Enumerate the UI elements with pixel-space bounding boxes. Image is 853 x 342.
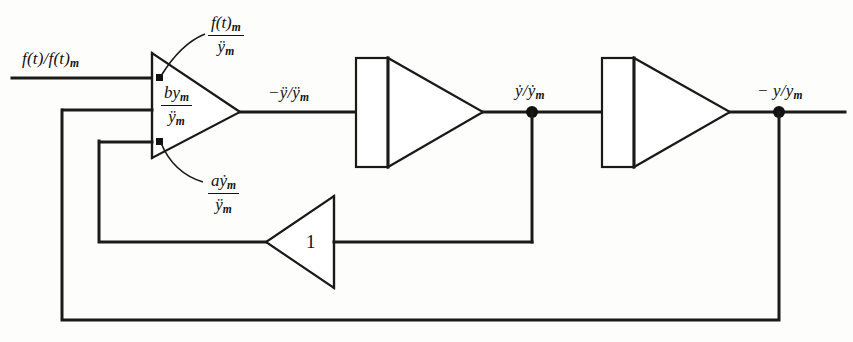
velocity-signal-text: ẏ/ẏ (515, 81, 535, 100)
input-signal-subscript: m (70, 57, 79, 70)
block-diagram-svg (0, 0, 853, 342)
velocity-gain-denominator-text: ÿ (215, 195, 223, 214)
velocity-gain-denominator: ÿm (208, 194, 239, 216)
inverter-amplifier-body (266, 196, 334, 288)
position-gain-numerator-text: by (164, 83, 180, 102)
forcing-gain-numerator-text: f(t) (211, 13, 232, 32)
figure-canvas: f(t)/f(t)m f(t)m ÿm bym ÿm aẏm ÿm −ÿ/ÿm … (0, 0, 853, 342)
velocity-gain-numerator: aẏm (208, 172, 239, 194)
acceleration-signal-subscript: m (300, 91, 309, 104)
velocity-signal-subscript: m (535, 89, 544, 102)
output-signal-subscript: m (794, 89, 803, 102)
forcing-gain-numerator: f(t)m (208, 14, 244, 36)
position-gain-numerator: bym (161, 84, 192, 106)
velocity-signal-label: ẏ/ẏm (515, 82, 544, 102)
velocity-gain-denominator-sub: m (223, 204, 232, 217)
forcing-gain-fraction: f(t)m ÿm (208, 14, 244, 59)
second-integrator-capacitor (602, 58, 634, 167)
position-gain-denominator-text: ÿ (168, 107, 176, 126)
acceleration-signal-text: −ÿ/ÿ (268, 83, 300, 102)
forcing-gain-denominator-sub: m (225, 46, 234, 59)
acceleration-signal-label: −ÿ/ÿm (268, 84, 309, 104)
velocity-feedback-path (99, 141, 266, 242)
velocity-gain-numerator-sub: m (227, 179, 236, 192)
first-integrator-amplifier (388, 58, 483, 167)
velocity-gain-fraction: aẏm ÿm (208, 172, 239, 217)
forcing-gain-denominator: ÿm (208, 36, 244, 58)
first-integrator-capacitor (356, 58, 388, 167)
forcing-gain-numerator-sub: m (232, 21, 241, 34)
position-gain-denominator: ÿm (161, 106, 192, 128)
velocity-gain-numerator-text: aẏ (211, 171, 227, 190)
output-signal-text: − y/y (757, 81, 794, 100)
inverter-gain-label: 1 (306, 231, 316, 253)
position-gain-numerator-sub: m (180, 91, 189, 104)
position-gain-fraction: bym ÿm (161, 84, 192, 129)
input-signal-text: f(t)/f(t) (22, 49, 70, 68)
output-signal-label: − y/ym (757, 82, 803, 102)
position-gain-denominator-sub: m (176, 116, 185, 129)
second-integrator-amplifier (634, 58, 730, 167)
input-signal-label: f(t)/f(t)m (22, 50, 79, 70)
